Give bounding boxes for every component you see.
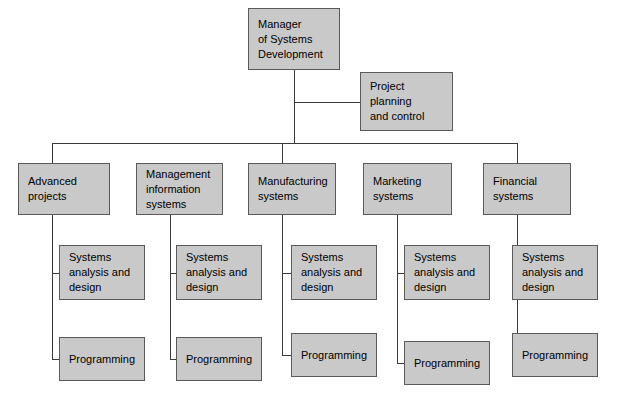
division-node-label-line: Management bbox=[146, 167, 218, 182]
systems-analysis-and-design-node-label-line: design bbox=[301, 280, 372, 295]
programming-node-label-line: Programming bbox=[69, 352, 140, 367]
systems-analysis-and-design-node-label-line: analysis and bbox=[186, 265, 257, 280]
division-node[interactable]: Marketingsystems bbox=[363, 163, 452, 215]
root-node-manager-of-systems-development-label-line: Development bbox=[258, 47, 335, 62]
division-spine-connector bbox=[282, 215, 283, 355]
division-spine-connector bbox=[170, 215, 171, 359]
systems-analysis-and-design-node-label-line: design bbox=[69, 280, 140, 295]
systems-analysis-and-design-node[interactable]: Systemsanalysis anddesign bbox=[59, 245, 145, 300]
programming-node-label-line: Programming bbox=[186, 352, 257, 367]
analysis-connector bbox=[282, 273, 291, 274]
programming-node-label-line: Programming bbox=[301, 348, 372, 363]
systems-analysis-and-design-node-label-line: analysis and bbox=[414, 265, 485, 280]
systems-analysis-and-design-node-label-line: analysis and bbox=[522, 265, 593, 280]
analysis-connector bbox=[52, 273, 59, 274]
division-stub-connector bbox=[52, 143, 53, 163]
division-node-label-line: systems bbox=[258, 189, 331, 204]
division-node[interactable]: Manufacturingsystems bbox=[248, 163, 336, 215]
division-node[interactable]: Financialsystems bbox=[483, 163, 571, 215]
division-node-label-line: Manufacturing bbox=[258, 174, 331, 189]
systems-analysis-and-design-node-label-line: Systems bbox=[414, 250, 485, 265]
division-spine-connector bbox=[52, 215, 53, 359]
division-node-label-line: Marketing bbox=[373, 174, 447, 189]
programming-node[interactable]: Programming bbox=[176, 337, 262, 381]
programming-connector bbox=[282, 355, 291, 356]
systems-analysis-and-design-node-label-line: Systems bbox=[301, 250, 372, 265]
staff-node-project-planning-and-control-label-line: Project bbox=[370, 79, 448, 94]
systems-analysis-and-design-node-label-line: design bbox=[186, 280, 257, 295]
systems-analysis-and-design-node-label-line: design bbox=[414, 280, 485, 295]
root-node-manager-of-systems-development-label-line: of Systems bbox=[258, 32, 335, 47]
division-stub-connector bbox=[282, 143, 283, 163]
division-bus-connector bbox=[52, 143, 517, 144]
root-node-manager-of-systems-development[interactable]: Managerof SystemsDevelopment bbox=[248, 8, 340, 70]
programming-connector bbox=[52, 359, 59, 360]
division-node-label-line: Advanced bbox=[28, 174, 105, 189]
division-node-label-line: information bbox=[146, 182, 218, 197]
division-node-label-line: systems bbox=[373, 189, 447, 204]
systems-analysis-and-design-node-label-line: analysis and bbox=[69, 265, 140, 280]
division-node[interactable]: Advancedprojects bbox=[18, 163, 110, 215]
systems-analysis-and-design-node-label-line: Systems bbox=[69, 250, 140, 265]
division-node-label-line: systems bbox=[493, 189, 566, 204]
division-node-label-line: systems bbox=[146, 197, 218, 212]
analysis-connector bbox=[397, 273, 404, 274]
division-node-label-line: projects bbox=[28, 189, 105, 204]
org-chart: Managerof SystemsDevelopmentProjectplann… bbox=[0, 0, 621, 411]
systems-analysis-and-design-node-label-line: design bbox=[522, 280, 593, 295]
systems-analysis-and-design-node-label-line: analysis and bbox=[301, 265, 372, 280]
staff-connector bbox=[294, 102, 360, 103]
staff-node-project-planning-and-control-label-line: planning bbox=[370, 94, 448, 109]
programming-node-label-line: Programming bbox=[522, 348, 593, 363]
division-stub-connector bbox=[517, 143, 518, 163]
division-node-label-line: Financial bbox=[493, 174, 566, 189]
trunk-connector bbox=[294, 70, 295, 143]
division-node[interactable]: Managementinformationsystems bbox=[136, 163, 223, 215]
division-spine-connector bbox=[397, 215, 398, 363]
programming-node[interactable]: Programming bbox=[291, 333, 377, 377]
staff-node-project-planning-and-control[interactable]: Projectplanningand control bbox=[360, 72, 453, 131]
programming-node[interactable]: Programming bbox=[59, 337, 145, 381]
root-node-manager-of-systems-development-label-line: Manager bbox=[258, 17, 335, 32]
programming-node-label-line: Programming bbox=[414, 356, 485, 371]
systems-analysis-and-design-node-label-line: Systems bbox=[186, 250, 257, 265]
systems-analysis-and-design-node[interactable]: Systemsanalysis anddesign bbox=[291, 245, 377, 300]
systems-analysis-and-design-node[interactable]: Systemsanalysis anddesign bbox=[512, 245, 598, 300]
programming-node[interactable]: Programming bbox=[512, 333, 598, 377]
programming-connector bbox=[397, 363, 404, 364]
programming-node[interactable]: Programming bbox=[404, 341, 490, 385]
systems-analysis-and-design-node[interactable]: Systemsanalysis anddesign bbox=[176, 245, 262, 300]
systems-analysis-and-design-node-label-line: Systems bbox=[522, 250, 593, 265]
systems-analysis-and-design-node[interactable]: Systemsanalysis anddesign bbox=[404, 245, 490, 300]
staff-node-project-planning-and-control-label-line: and control bbox=[370, 109, 448, 124]
